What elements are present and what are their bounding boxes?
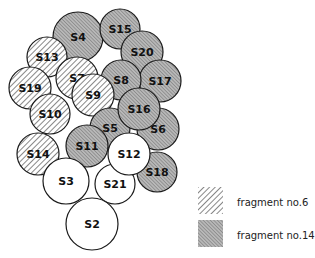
circle-label: S21 — [103, 178, 126, 191]
circle-label: S15 — [108, 23, 131, 36]
circle-label: S10 — [38, 108, 62, 121]
legend-label: fragment no.14 — [237, 230, 315, 241]
circle-label: S18 — [145, 166, 168, 179]
circle-s2: S2 — [66, 198, 118, 250]
circle-group: S4S15S20S13S17S8S7S19S10S9S5S6S16S18S14S… — [9, 9, 181, 250]
circle-label: S12 — [117, 148, 140, 161]
circle-label: S9 — [85, 89, 101, 102]
circle-s10: S10 — [30, 94, 70, 134]
legend: fragment no.6fragment no.14 — [198, 187, 315, 247]
circle-label: S3 — [58, 175, 74, 188]
circle-label: S2 — [84, 218, 100, 231]
circle-label: S13 — [35, 51, 58, 64]
circle-label: S17 — [148, 75, 171, 88]
circle-s12: S12 — [108, 133, 150, 175]
circle-label: S8 — [113, 74, 129, 87]
circle-label: S14 — [26, 148, 50, 161]
legend-label: fragment no.6 — [237, 197, 308, 208]
circle-label: S11 — [75, 140, 98, 153]
circle-label: S20 — [130, 46, 154, 59]
circle-label: S5 — [102, 122, 118, 135]
legend-swatch-hatch — [198, 187, 223, 214]
circle-label: S4 — [70, 31, 86, 44]
circle-s3: S3 — [43, 158, 89, 204]
legend-swatch-shade — [198, 220, 223, 247]
circle-s16: S16 — [118, 88, 160, 130]
circle-label: S19 — [18, 82, 41, 95]
fragment-circle-diagram: S4S15S20S13S17S8S7S19S10S9S5S6S16S18S14S… — [0, 0, 315, 258]
circle-label: S16 — [127, 103, 151, 116]
